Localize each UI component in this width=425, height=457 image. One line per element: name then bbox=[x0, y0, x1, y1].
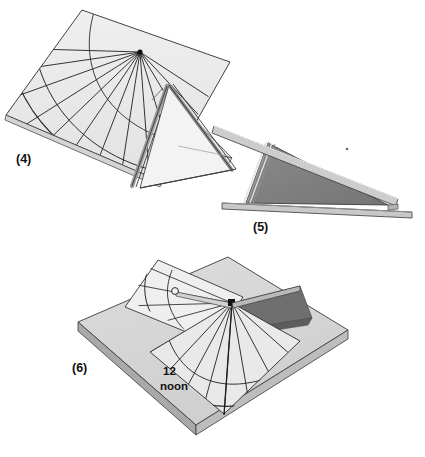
sundial-figures-svg: (4) bbox=[0, 0, 425, 457]
gnomon-node bbox=[137, 49, 142, 54]
noon-label-line1: 12 bbox=[163, 365, 176, 377]
gnomon-foot-joint bbox=[388, 204, 398, 210]
plate-marker bbox=[346, 148, 349, 151]
figure-5-label: (5) bbox=[253, 220, 268, 234]
figure-4-label: (4) bbox=[16, 152, 31, 166]
figure-5-group: (5) bbox=[212, 126, 412, 234]
noon-label-line2: noon bbox=[160, 380, 188, 392]
figure-plate: (4) bbox=[0, 0, 425, 457]
figure-6-label: (6) bbox=[72, 361, 87, 375]
figure-4-group: (4) bbox=[2, 6, 236, 188]
nodus-bead bbox=[172, 288, 179, 295]
figure-6-group: (6) 12 noon bbox=[72, 257, 348, 435]
